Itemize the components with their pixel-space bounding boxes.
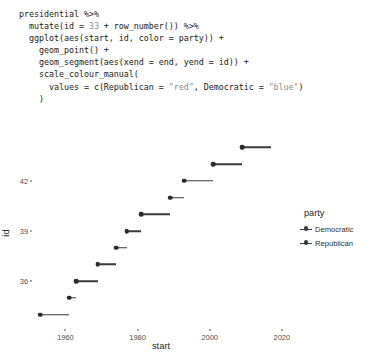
point-mark	[139, 212, 144, 217]
code-line: geom_point() +	[19, 44, 373, 56]
point-mark	[211, 162, 216, 167]
y-axis-title: id	[0, 229, 11, 236]
legend-key-icon	[299, 237, 313, 249]
y-tick-label: 39	[20, 227, 28, 236]
segment-mark	[76, 280, 98, 282]
code-line: presidential %>%	[19, 8, 373, 20]
legend-item: Republican	[299, 236, 373, 250]
point-mark	[38, 312, 43, 317]
y-tick-mark	[30, 281, 33, 282]
code-token: geom_segment(aes(xend = end, yend = id))…	[19, 57, 249, 67]
ggplot-figure: 363942 1960198020002020 start id party D…	[0, 120, 373, 362]
code-token: + row_number()) %>%	[99, 21, 199, 31]
code-line: )	[19, 93, 373, 105]
x-axis-title: start	[33, 340, 289, 351]
code-token-str: "blue"	[269, 82, 299, 92]
point-mark	[168, 195, 173, 200]
segment-mark	[184, 180, 213, 182]
code-token: )	[299, 82, 304, 92]
point-mark	[240, 145, 245, 150]
code-token: scale_colour_manual(	[19, 69, 139, 79]
code-token: mutate(id =	[19, 21, 89, 31]
x-tick-mark	[65, 329, 66, 332]
y-tick-label: 36	[20, 277, 28, 286]
legend-label: Democratic	[315, 225, 353, 234]
y-tick-mark	[30, 231, 33, 232]
code-token: , Democratic =	[194, 82, 269, 92]
legend: party DemocraticRepublican	[299, 208, 373, 250]
segment-mark	[213, 163, 242, 165]
legend-item: Democratic	[299, 222, 373, 236]
segment-mark	[40, 314, 69, 316]
x-tick-mark	[281, 329, 282, 332]
segment-mark	[242, 147, 271, 149]
point-mark	[114, 245, 119, 250]
legend-items: DemocraticRepublican	[299, 222, 373, 250]
point-mark	[182, 179, 187, 184]
code-line: scale_colour_manual(	[19, 68, 373, 80]
legend-label: Republican	[315, 239, 353, 248]
code-block: presidential %>% mutate(id = 33 + row_nu…	[0, 0, 373, 120]
code-line: mutate(id = 33 + row_number()) %>%	[19, 20, 373, 32]
code-token: geom_point() +	[19, 45, 109, 55]
segment-mark	[141, 214, 170, 216]
code-line: geom_segment(aes(xend = end, yend = id))…	[19, 56, 373, 68]
code-token: )	[19, 94, 44, 104]
code-token-str: "red"	[169, 82, 194, 92]
code-token: values = c(Republican =	[19, 82, 169, 92]
code-token: ggplot(aes(start, id, color = party)) +	[19, 33, 224, 43]
code-token: presidential %>%	[19, 9, 99, 19]
segment-mark	[98, 264, 116, 266]
code-line: ggplot(aes(start, id, color = party)) +	[19, 32, 373, 44]
point-mark	[96, 262, 101, 267]
code-token-lit: 33	[89, 21, 99, 31]
point-mark	[67, 296, 72, 301]
x-tick-mark	[209, 329, 210, 332]
y-tick-label: 42	[20, 176, 28, 185]
x-tick-mark	[137, 329, 138, 332]
legend-title: party	[299, 208, 373, 218]
y-tick-mark	[30, 180, 33, 181]
code-line: values = c(Republican = "red", Democrati…	[19, 81, 373, 93]
legend-key-icon	[299, 223, 313, 235]
point-mark	[74, 279, 79, 284]
point-mark	[124, 229, 129, 234]
